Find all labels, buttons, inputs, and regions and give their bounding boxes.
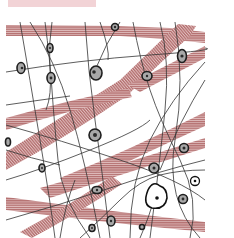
collagen-bundles [6, 24, 205, 238]
fat-cell [146, 184, 167, 209]
cell [140, 225, 145, 230]
cell [90, 66, 102, 80]
cell [6, 138, 11, 146]
connective-tissue-figure [0, 0, 234, 238]
round-cell [191, 177, 200, 186]
